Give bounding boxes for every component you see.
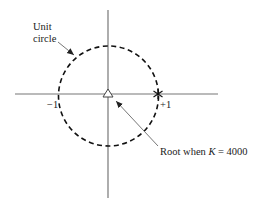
root-annotation-label: Root when K = 4000 <box>160 146 248 157</box>
unit-circle-arrow <box>58 42 74 55</box>
root-arrow <box>116 101 158 146</box>
circle-label: circle <box>33 33 57 44</box>
unit-circle-diagram: Unit circle −1 +1 Root when K = 4000 <box>0 0 258 207</box>
unit-label: Unit <box>33 21 52 32</box>
origin-triangle-marker <box>103 89 113 97</box>
diagram-canvas: Unit circle −1 +1 Root when K = 4000 <box>0 0 258 207</box>
plus-one-label: +1 <box>160 99 171 110</box>
minus-one-label: −1 <box>47 99 58 110</box>
